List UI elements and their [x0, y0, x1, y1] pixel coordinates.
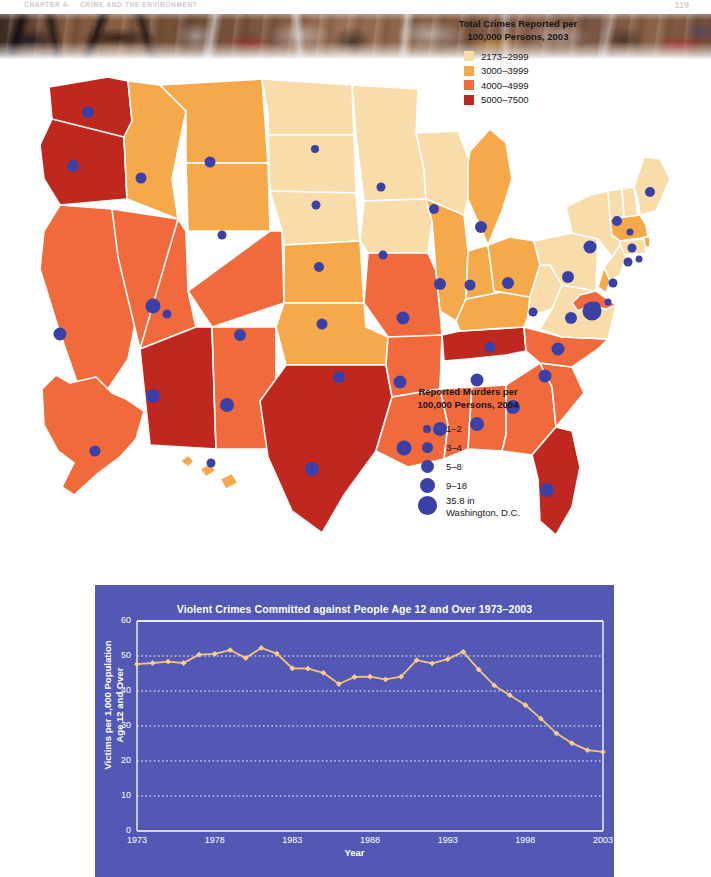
- murder-dot-ky[interactable]: [485, 342, 496, 353]
- chart-marker-1993[interactable]: [445, 656, 451, 662]
- murder-dot-nh[interactable]: [627, 229, 634, 236]
- chart-marker-1973[interactable]: [134, 661, 140, 667]
- murder-dot-ct[interactable]: [624, 258, 633, 267]
- murder-dot-or[interactable]: [67, 160, 79, 172]
- murder-dot-ne[interactable]: [314, 262, 324, 272]
- murder-dot-ak[interactable]: [90, 446, 101, 457]
- chart-x-tick-1988: 1988: [350, 835, 390, 845]
- reported-murders-legend-rows: 1–23–45–89–1835.8 inWashington, D.C.: [414, 419, 572, 521]
- chart-marker-1984[interactable]: [305, 666, 311, 672]
- murder-dot-mn[interactable]: [377, 183, 386, 192]
- map-state-sd[interactable]: [268, 135, 356, 193]
- chart-y-tick-50: 50: [107, 650, 131, 660]
- total-crimes-legend: Total Crimes Reported per 100,000 Person…: [428, 18, 608, 107]
- murder-dot-mi[interactable]: [475, 221, 487, 233]
- chart-marker-1989[interactable]: [383, 677, 389, 683]
- crime-legend-swatch: [464, 80, 474, 90]
- chart-marker-1992[interactable]: [429, 660, 435, 666]
- total-crimes-legend-rows: 2173–29993000–39994000–49995000–7500: [464, 49, 608, 107]
- murder-dot-tn[interactable]: [471, 374, 484, 387]
- murder-dot-ut[interactable]: [163, 310, 172, 319]
- murder-dot-mo[interactable]: [397, 312, 410, 325]
- map-state-mo[interactable]: [364, 253, 442, 341]
- chart-marker-2003[interactable]: [600, 749, 606, 755]
- map-state-tx[interactable]: [260, 365, 392, 533]
- murder-dot-nv[interactable]: [146, 299, 161, 314]
- map-state-mi[interactable]: [468, 129, 512, 245]
- murder-dot-ca[interactable]: [54, 328, 67, 341]
- murder-legend-label: 9–18: [446, 480, 467, 492]
- murder-dot-vt[interactable]: [612, 216, 622, 226]
- murder-dot-de[interactable]: [605, 299, 612, 306]
- murder-dot-il[interactable]: [434, 278, 446, 290]
- murder-dot-az[interactable]: [146, 389, 160, 403]
- murder-dot-in[interactable]: [465, 280, 476, 291]
- map-state-tn[interactable]: [442, 327, 526, 361]
- murder-legend-label: 5–8: [446, 461, 462, 473]
- murder-dot-dc[interactable]: [583, 302, 602, 321]
- murder-legend-label: 35.8 inWashington, D.C.: [446, 495, 520, 518]
- running-head: CHAPTER 4 • CRIME AND THE ENVIRONMENT 11…: [0, 0, 711, 14]
- map-state-co[interactable]: [188, 231, 284, 327]
- crime-legend-swatch: [464, 51, 474, 61]
- map-state-hi[interactable]: [180, 455, 194, 467]
- murder-dot-pa[interactable]: [562, 271, 574, 283]
- murder-dot-nc[interactable]: [552, 343, 565, 356]
- chart-marker-1975[interactable]: [165, 659, 171, 665]
- legend-title-line-2: 100,000 Persons, 2003: [428, 31, 608, 44]
- murder-dot-mt[interactable]: [205, 157, 216, 168]
- chart-line-series: [137, 648, 603, 752]
- murder-dot-nj[interactable]: [609, 279, 618, 288]
- map-state-me[interactable]: [634, 157, 670, 215]
- map-state-ak[interactable]: [42, 375, 144, 495]
- murder-dot-nd[interactable]: [311, 145, 319, 153]
- crime-legend-label: 4000–4999: [481, 80, 529, 91]
- chart-marker-1987[interactable]: [352, 674, 358, 680]
- murder-dot-sc[interactable]: [539, 370, 552, 383]
- map-state-hi[interactable]: [220, 473, 238, 489]
- reported-murders-legend-title: Reported Murders per 100,000 Persons, 20…: [392, 386, 544, 411]
- murder-legend-label-line-2: Washington, D.C.: [446, 507, 520, 519]
- murder-dot-ok[interactable]: [333, 371, 345, 383]
- murder-legend-dot: [422, 442, 433, 453]
- map-state-ia[interactable]: [360, 199, 432, 253]
- us-map-svg: [0, 59, 711, 574]
- murder-dot-co[interactable]: [234, 329, 246, 341]
- murder-dot-ma[interactable]: [628, 244, 637, 253]
- running-head-separator: •: [66, 1, 68, 8]
- murder-dot-oh[interactable]: [502, 277, 514, 289]
- crime-legend-swatch: [464, 95, 474, 105]
- chart-y-tick-30: 30: [107, 720, 131, 730]
- murder-dot-wy[interactable]: [218, 231, 227, 240]
- murder-dot-ri[interactable]: [636, 256, 643, 263]
- murder-legend-row: 9–18: [414, 476, 572, 495]
- map-state-ks[interactable]: [284, 241, 364, 303]
- map-state-wy[interactable]: [186, 163, 270, 231]
- murder-dot-me[interactable]: [645, 187, 655, 197]
- murder-dot-tx[interactable]: [305, 462, 319, 476]
- murder-dot-id[interactable]: [136, 173, 147, 184]
- murder-dot-wv[interactable]: [529, 308, 538, 317]
- murder-dot-ny[interactable]: [584, 241, 597, 254]
- murder-dot-sd[interactable]: [312, 201, 321, 210]
- textbook-page: CHAPTER 4 • CRIME AND THE ENVIRONMENT 11…: [0, 0, 711, 877]
- map-state-nd[interactable]: [262, 79, 354, 135]
- murder-dot-ks[interactable]: [317, 319, 328, 330]
- murder-dot-wa[interactable]: [82, 106, 94, 118]
- chart-marker-1974[interactable]: [150, 660, 156, 666]
- murder-dot-va[interactable]: [565, 312, 577, 324]
- crime-legend-row: 3000–3999: [464, 64, 608, 79]
- map-state-mn[interactable]: [352, 85, 426, 201]
- murder-dot-nm[interactable]: [220, 398, 234, 412]
- violent-crimes-chart: Violent Crimes Committed against People …: [95, 585, 614, 877]
- chart-data-line: [137, 648, 603, 752]
- chart-marker-2002[interactable]: [585, 747, 591, 753]
- murder-dot-wi[interactable]: [429, 204, 439, 214]
- murder-dot-ia[interactable]: [379, 251, 388, 260]
- map-state-ne[interactable]: [270, 191, 360, 245]
- murder-dot-hi[interactable]: [207, 459, 216, 468]
- chart-x-tick-1998: 1998: [505, 835, 545, 845]
- murder-legend-dot-wrapper: [414, 442, 440, 453]
- map-state-az[interactable]: [140, 327, 216, 449]
- chart-marker-1988[interactable]: [367, 674, 373, 680]
